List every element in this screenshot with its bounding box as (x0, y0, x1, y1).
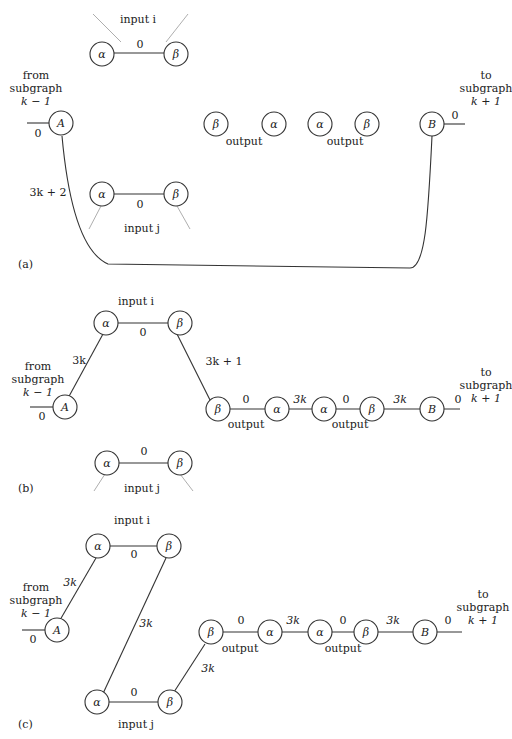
stub-weight: 0 (35, 127, 42, 140)
panel-label-c: (c) (18, 718, 33, 731)
from-label-line3: k − 1 (21, 95, 51, 108)
node-beta-input-i: β (157, 534, 181, 558)
stub-weight: 0 (455, 393, 462, 406)
long-edge (62, 136, 432, 268)
node-beta-output-2: β (355, 112, 379, 136)
node-A: A (45, 618, 69, 642)
from-label-line2: subgraph (10, 594, 63, 607)
svg-text:β: β (176, 457, 183, 470)
output-label: output (228, 418, 265, 431)
input-j-label: input j (124, 222, 160, 235)
stub-edge (180, 474, 193, 491)
to-label-line3: k + 1 (471, 392, 501, 405)
node-beta-input-i: β (168, 311, 192, 335)
panel-label-b: (b) (18, 482, 34, 495)
svg-text:α: α (320, 403, 328, 416)
edge-weight-A-alpha: 3k (72, 354, 86, 367)
node-alpha-input-j: α (85, 690, 109, 714)
output-label: output (327, 135, 364, 148)
node-beta-output-1: β (199, 620, 223, 644)
svg-text:α: α (273, 403, 281, 416)
gadget-diagram: input i 0 α β from subgraph k − 1 0 A 3k… (0, 0, 512, 739)
svg-text:A: A (52, 624, 61, 637)
edge-weight: 0 (137, 198, 144, 211)
node-beta-input-j: β (158, 690, 182, 714)
svg-text:α: α (94, 540, 102, 553)
svg-text:β: β (362, 626, 369, 639)
svg-text:β: β (166, 696, 173, 709)
svg-text:B: B (427, 118, 436, 131)
to-label-line3: k + 1 (468, 614, 498, 627)
node-alpha-input-j: α (95, 451, 119, 475)
long-edge-weight: 3k + 2 (30, 186, 67, 199)
svg-text:β: β (207, 626, 214, 639)
stub-edge (177, 206, 190, 229)
edge-A-alpha (67, 334, 103, 400)
svg-text:β: β (368, 403, 375, 416)
from-label-line3: k − 1 (21, 607, 51, 620)
svg-text:A: A (56, 117, 65, 130)
from-label-line2: subgraph (12, 373, 65, 386)
edge-weight: 0 (140, 326, 147, 339)
edge-weight-beta-i-alpha-j: 3k (139, 617, 153, 630)
stub-edge (166, 14, 188, 42)
stub-edge (94, 474, 105, 491)
output-label: output (222, 642, 259, 655)
to-label-line1: to (477, 588, 488, 601)
svg-text:β: β (212, 118, 219, 131)
node-B: B (420, 112, 444, 136)
edge-weight: 0 (141, 445, 148, 458)
output-label: output (325, 642, 362, 655)
svg-text:α: α (316, 626, 324, 639)
edge-weight: 0 (131, 686, 138, 699)
edge-weight: 0 (243, 393, 250, 406)
input-i-label: input i (118, 295, 155, 308)
edge-weight: 3k (286, 614, 300, 627)
node-beta-input-j: β (164, 182, 188, 206)
to-label-line1: to (480, 366, 491, 379)
svg-text:A: A (60, 401, 69, 414)
node-alpha-output-2: α (308, 112, 332, 136)
input-i-label: input i (114, 514, 151, 527)
svg-text:β: β (172, 188, 179, 201)
stub-weight: 0 (39, 410, 46, 423)
stub-weight: 0 (445, 614, 452, 627)
edge-weight: 0 (131, 548, 138, 561)
output-label: output (226, 135, 263, 148)
panel-label-a: (a) (18, 258, 33, 271)
node-B: B (420, 397, 444, 421)
svg-text:α: α (103, 457, 111, 470)
node-alpha-input-j: α (90, 182, 114, 206)
node-beta-output-1: β (204, 112, 228, 136)
to-label-line2: subgraph (460, 82, 512, 95)
stub-edge (89, 206, 101, 229)
svg-text:β: β (172, 48, 179, 61)
svg-text:β: β (363, 118, 370, 131)
svg-text:B: B (427, 403, 436, 416)
to-label-line2: subgraph (457, 601, 510, 614)
edge-weight: 3k (386, 614, 400, 627)
output-label: output (332, 418, 369, 431)
node-alpha-input-i: α (90, 42, 114, 66)
svg-text:B: B (420, 626, 429, 639)
svg-text:β: β (176, 317, 183, 330)
node-alpha-output-1: α (258, 620, 282, 644)
node-alpha-output-1: α (262, 112, 286, 136)
svg-text:α: α (98, 48, 106, 61)
node-beta-output-2: β (354, 620, 378, 644)
to-label-line1: to (480, 69, 491, 82)
svg-text:β: β (165, 540, 172, 553)
edge-weight: 0 (238, 614, 245, 627)
edge-weight-A-alpha: 3k (63, 576, 77, 589)
panel-b: input i 0 3k 3k + 1 α β from subgraph k … (12, 295, 512, 495)
edge-weight-beta-j-output: 3k (201, 662, 215, 675)
node-A: A (49, 111, 73, 135)
edge-weight: 0 (343, 393, 350, 406)
edge-beta-i-alpha-j (100, 558, 166, 700)
edge-weight: 3k (393, 393, 407, 406)
from-label-line3: k − 1 (23, 386, 53, 399)
node-B: B (413, 620, 437, 644)
to-label-line2: subgraph (460, 379, 512, 392)
panel-c: input i 0 3k 3k α β from subgraph k − 1 … (10, 514, 510, 731)
edge-weight: 3k (293, 393, 307, 406)
